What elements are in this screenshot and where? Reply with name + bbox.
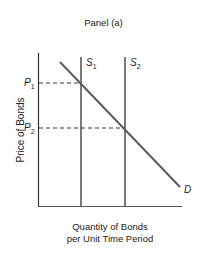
x-axis-label: Quantity of Bonds per Unit Time Period (45, 221, 175, 245)
x-axis-label-line2: per Unit Time Period (45, 233, 175, 245)
demand-curve (60, 62, 180, 187)
s1-label: S1 (86, 57, 97, 70)
chart-plot: S1 S2 D P1 P2 (0, 0, 207, 254)
p2-label: P2 (24, 122, 35, 135)
s2-label: S2 (130, 57, 141, 70)
d-label: D (184, 184, 191, 195)
x-axis-label-line1: Quantity of Bonds (45, 221, 175, 233)
p1-label: P1 (24, 77, 35, 90)
